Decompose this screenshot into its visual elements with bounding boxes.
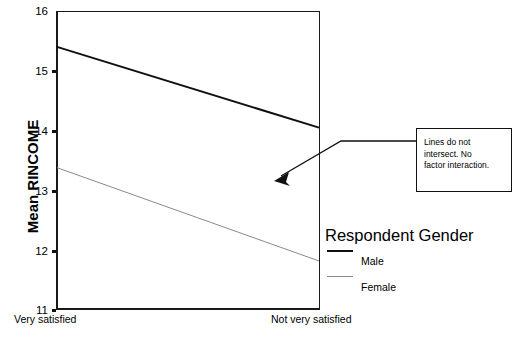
legend-label-female: Female: [361, 281, 396, 293]
annotation-line-1: Lines do not: [424, 137, 470, 147]
legend-title: Respondent Gender: [325, 226, 474, 245]
y-axis-title: Mean RINCOME: [24, 87, 41, 267]
chart-screenshot: Mean RINCOME 16 15 14 13 12 11 Very sati…: [0, 0, 516, 347]
y-tick-label: 13: [18, 185, 48, 197]
legend-label-male: Male: [361, 255, 384, 267]
y-tick-label: 12: [18, 245, 48, 257]
legend-swatch-female-line-icon: [327, 276, 353, 277]
annotation-callout-text: Lines do not intersect. No factor intera…: [424, 137, 508, 172]
legend-entry-male: Male: [325, 245, 474, 271]
legend-swatch-male-line-icon: [327, 250, 353, 252]
legend: Respondent Gender Male Female: [325, 226, 474, 297]
annotation-callout-box: Lines do not intersect. No factor intera…: [416, 128, 512, 192]
y-tick-label: 16: [18, 5, 48, 17]
legend-entry-female: Female: [325, 271, 474, 297]
y-tick-label: 14: [18, 125, 48, 137]
plot-area-frame: [56, 11, 320, 310]
y-tick-label: 15: [18, 65, 48, 77]
annotation-line-2: intersect. No: [424, 149, 472, 159]
x-tick-label-very-satisfied: Very satisfied: [14, 313, 76, 325]
x-tick-label-not-very-satisfied: Not very satisfied: [271, 313, 352, 325]
annotation-line-3: factor interaction.: [424, 160, 489, 170]
